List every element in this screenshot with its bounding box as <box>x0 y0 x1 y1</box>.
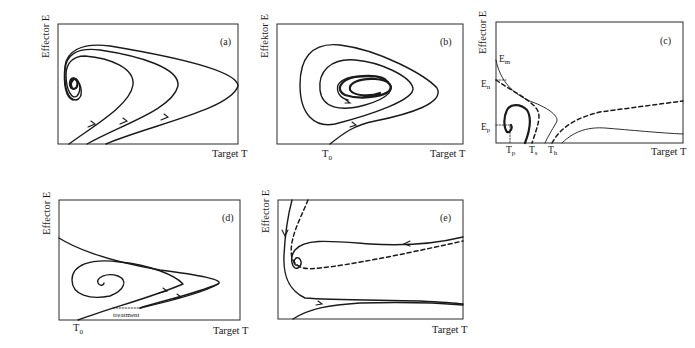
panel-e: Effector E Target T (e) <box>260 190 468 335</box>
panel-e-xlabel: Target T <box>432 324 468 335</box>
panel-b-arrow-icon <box>350 122 356 127</box>
panel-c-ylabel: Effector E <box>477 11 488 54</box>
panel-b-frame <box>277 24 463 144</box>
panel-a-spiral-focus <box>71 79 78 89</box>
panel-d-frame <box>59 200 240 320</box>
figure-canvas: Effector E Target T (a) Effektor E Targe… <box>0 0 695 348</box>
panel-e-trajectory-left <box>284 200 463 304</box>
panel-b-limit-cycle <box>340 76 391 98</box>
panel-a-ylabel: Effector E <box>40 15 51 58</box>
panel-e-ylabel: Effector E <box>260 190 271 233</box>
panel-c-ts-label: Ts <box>529 145 538 157</box>
panel-c-label: (c) <box>660 35 671 47</box>
panel-c-en-label: En <box>481 79 491 91</box>
panel-e-separatrix <box>291 200 463 269</box>
panel-a-trajectory-middle <box>65 49 178 144</box>
panel-a-arrow-icon <box>161 114 168 120</box>
panel-c-closed-loop <box>504 105 530 143</box>
panel-e-arrow-icon <box>316 301 322 305</box>
panel-b-xlabel: Target T <box>430 148 466 159</box>
panel-c-ep-label: Ep <box>481 122 491 134</box>
panel-c-em-label: Em <box>499 54 511 66</box>
panel-a-frame <box>58 24 238 144</box>
panel-b: Effektor E Target T (b) T0 <box>259 14 466 162</box>
panel-d-treatment-label: treatment <box>113 311 139 319</box>
panel-c-nullcline-lower <box>562 128 683 143</box>
panel-c-frame <box>496 22 683 143</box>
panel-c-xlabel: Target T <box>651 146 687 157</box>
panel-c-nullcline-dashed <box>496 80 539 143</box>
panel-a-arrow-icon <box>120 118 127 124</box>
panel-e-arrow-icon <box>282 230 288 236</box>
panel-a-xlabel: Target T <box>212 148 248 159</box>
panel-d-trajectory-outer <box>59 238 219 308</box>
panel-e-trajectory-upper <box>292 237 463 268</box>
panel-e-label: (e) <box>440 212 451 224</box>
panel-a: Effector E Target T (a) <box>40 15 248 159</box>
panel-c-ep-tp-guide <box>496 125 510 143</box>
panel-c-th-label: Th <box>548 145 558 157</box>
panel-d-xlabel: Target T <box>213 325 249 336</box>
panel-b-label: (b) <box>440 36 452 48</box>
panel-d-t0-label: T0 <box>73 322 83 336</box>
panel-c-tp-label: Tp <box>506 145 516 157</box>
panel-c-separatrix-dashed <box>552 101 683 143</box>
panel-b-arrow-icon <box>345 100 350 103</box>
panel-d-ylabel: Effector E <box>41 192 52 235</box>
panel-b-ylabel: Effektor E <box>259 14 270 58</box>
panel-d: Effector E Target T (d) T0 treatment <box>41 192 249 336</box>
panel-a-label: (a) <box>220 36 231 48</box>
panel-d-label: (d) <box>222 212 234 224</box>
panel-b-t0-label: T0 <box>322 148 332 162</box>
panel-c: Effector E Target T (c) Em En Ep Tp Ts T… <box>477 11 687 157</box>
panel-d-arrow-icon <box>159 288 167 293</box>
